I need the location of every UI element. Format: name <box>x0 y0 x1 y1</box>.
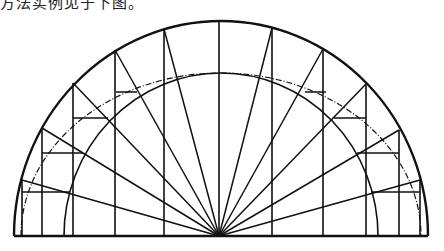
radial-line <box>219 180 420 236</box>
radial-line <box>219 49 323 236</box>
dashed-arc <box>21 73 421 236</box>
radial-line <box>22 180 219 236</box>
semicircle-construction-diagram <box>0 0 444 251</box>
radial-line <box>219 130 399 236</box>
radial-line <box>164 29 219 236</box>
radial-line <box>219 84 366 236</box>
radial-line <box>219 28 272 236</box>
inner-arc <box>64 73 378 236</box>
